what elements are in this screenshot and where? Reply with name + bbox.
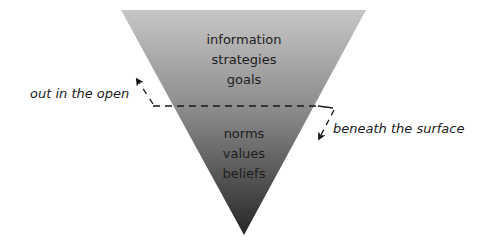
arrow-down-icon	[320, 110, 334, 137]
lower-item-values: values	[223, 146, 266, 161]
upper-item-goals: goals	[227, 72, 262, 87]
label-beneath-the-surface: beneath the surface	[333, 121, 464, 136]
upper-item-strategies: strategies	[212, 52, 277, 67]
arrow-up-icon	[138, 81, 153, 104]
divider-right-connector	[318, 106, 333, 108]
label-out-in-the-open: out in the open	[30, 86, 129, 101]
iceberg-triangle-diagram: information strategies goals norms value…	[0, 0, 500, 247]
lower-item-beliefs: beliefs	[223, 166, 266, 181]
upper-item-information: information	[206, 32, 281, 47]
lower-item-norms: norms	[224, 126, 265, 141]
lower-section: norms values beliefs	[223, 126, 266, 181]
